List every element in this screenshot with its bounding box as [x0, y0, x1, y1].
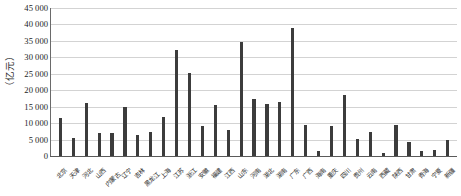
x-label-slot: 山西 — [93, 157, 106, 196]
x-label-slot: 浙江 — [183, 157, 196, 196]
bar — [175, 50, 178, 156]
bar — [252, 99, 255, 156]
bar-slot — [273, 8, 286, 156]
bar — [265, 104, 268, 156]
y-axis-tick-label: 25 000 — [6, 69, 48, 78]
bar-slot — [196, 8, 209, 156]
bar — [162, 117, 165, 156]
bar-slot — [67, 8, 80, 156]
x-label-slot: 河北 — [80, 157, 93, 196]
bar-slot — [157, 8, 170, 156]
x-label-slot: 湖北 — [261, 157, 274, 196]
bar-slot — [106, 8, 119, 156]
x-label-slot: 贵州 — [351, 157, 364, 196]
x-label-slot: 宁夏 — [428, 157, 441, 196]
bar-slot — [54, 8, 67, 156]
bar-slot — [312, 8, 325, 156]
x-label-slot: 内蒙古 — [106, 157, 119, 196]
bar-slot — [286, 8, 299, 156]
bar-slot — [131, 8, 144, 156]
y-axis-tick-label: 40 000 — [6, 20, 48, 29]
bar — [240, 42, 243, 156]
x-label-slot: 西藏 — [377, 157, 390, 196]
bar — [394, 125, 397, 156]
y-axis-tick-label: 35 000 — [6, 37, 48, 46]
bar — [420, 151, 423, 156]
bar — [356, 139, 359, 156]
y-axis-tick-label: 10 000 — [6, 119, 48, 128]
bar-slot — [93, 8, 106, 156]
bar-slot — [119, 8, 132, 156]
bar — [59, 118, 62, 156]
bar — [369, 132, 372, 156]
x-axis-tick-label: 新疆 — [443, 167, 456, 180]
plot-area — [50, 8, 457, 156]
bar-slot — [299, 8, 312, 156]
y-axis-tick-label: 30 000 — [6, 53, 48, 62]
bar-slot — [235, 8, 248, 156]
x-label-slot: 天津 — [67, 157, 80, 196]
x-label-slot: 江西 — [222, 157, 235, 196]
bar-slot — [390, 8, 403, 156]
bar-series — [50, 8, 457, 156]
x-label-slot: 新疆 — [441, 157, 454, 196]
bar — [214, 105, 217, 156]
x-label-slot: 陕西 — [390, 157, 403, 196]
bar — [85, 103, 88, 156]
y-axis-tick-labels: 45 00040 00035 00030 00025 00020 00015 0… — [6, 8, 48, 156]
x-label-slot: 湖南 — [273, 157, 286, 196]
bar-slot — [170, 8, 183, 156]
x-label-slot: 黑龙江 — [144, 157, 157, 196]
x-label-slot: 甘肃 — [402, 157, 415, 196]
bar-slot — [351, 8, 364, 156]
x-label-slot: 重庆 — [325, 157, 338, 196]
bar — [343, 95, 346, 156]
bar-slot — [325, 8, 338, 156]
bar — [317, 151, 320, 156]
bar — [330, 126, 333, 156]
x-axis-tick-labels: 北京天津河北山西内蒙古辽宁吉林黑龙江上海江苏浙江安徽福建江西山东河南湖北湖南广东… — [50, 157, 457, 196]
bar-slot — [183, 8, 196, 156]
x-label-slot: 江苏 — [170, 157, 183, 196]
bar — [278, 102, 281, 156]
bar — [382, 153, 385, 156]
x-label-slot: 辽宁 — [119, 157, 132, 196]
bar — [291, 28, 294, 156]
x-label-slot: 吉林 — [131, 157, 144, 196]
bar — [446, 140, 449, 156]
bar — [123, 107, 126, 156]
bar — [188, 73, 191, 156]
x-label-slot: 四川 — [338, 157, 351, 196]
y-axis-tick-label: 0 — [6, 152, 48, 161]
bar-slot — [415, 8, 428, 156]
y-axis-tick-label: 45 000 — [6, 4, 48, 13]
bar — [72, 138, 75, 156]
bar — [304, 125, 307, 156]
bar-slot — [209, 8, 222, 156]
x-label-slot: 青海 — [415, 157, 428, 196]
bar-slot — [222, 8, 235, 156]
bar — [227, 130, 230, 156]
x-label-slot: 广西 — [299, 157, 312, 196]
y-axis-tick-label: 15 000 — [6, 102, 48, 111]
x-label-slot: 福建 — [209, 157, 222, 196]
x-label-slot: 北京 — [54, 157, 67, 196]
bar — [110, 133, 113, 156]
bar-slot — [441, 8, 454, 156]
bar — [407, 142, 410, 156]
x-label-slot: 海南 — [312, 157, 325, 196]
x-label-slot: 云南 — [364, 157, 377, 196]
bar — [136, 135, 139, 156]
bar — [149, 132, 152, 156]
bar-slot — [364, 8, 377, 156]
x-label-slot: 广东 — [286, 157, 299, 196]
bar-slot — [261, 8, 274, 156]
bar-chart: （亿元） 45 00040 00035 00030 00025 00020 00… — [0, 0, 461, 196]
bar-slot — [248, 8, 261, 156]
x-label-slot: 安徽 — [196, 157, 209, 196]
bar-slot — [338, 8, 351, 156]
bar-slot — [144, 8, 157, 156]
x-label-slot: 河南 — [248, 157, 261, 196]
bar — [98, 133, 101, 156]
bar — [201, 126, 204, 156]
